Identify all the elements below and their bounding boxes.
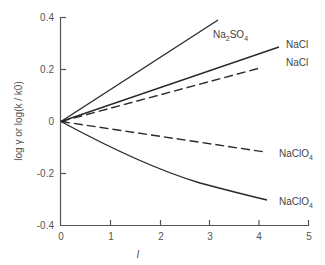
label-nacl-solid: NaCl (286, 39, 308, 50)
x-axis-title: I (137, 249, 140, 260)
label-na2so4: Na2SO4 (213, 29, 248, 42)
series-labels: Na2SO4 NaCl NaCl NaClO4 NaClO4 (213, 29, 313, 209)
y-tick-0.2: 0.2 (40, 64, 54, 75)
y-tick-neg0.2: -0.2 (37, 168, 55, 179)
x-tick-5: 5 (306, 231, 312, 242)
y-tick-0.4: 0.4 (40, 12, 54, 23)
series-nacl-solid (61, 47, 279, 122)
y-tick-neg0.4: -0.4 (37, 220, 55, 231)
y-tick-labels: 0.4 0.2 0 -0.2 -0.4 (37, 12, 55, 231)
axes (60, 17, 309, 226)
label-nacl-dashed: NaCl (286, 57, 308, 68)
x-tick-labels: 0 1 2 3 4 5 (58, 231, 312, 242)
x-tick-0: 0 (58, 231, 64, 242)
x-tick-3: 3 (207, 231, 213, 242)
series-naclo4-dashed (61, 122, 265, 153)
chart: 0.4 0.2 0 -0.2 -0.4 0 1 2 3 4 5 I log γ … (0, 0, 325, 265)
series-nacl-dashed (61, 68, 260, 122)
label-naclo4-dashed: NaClO4 (279, 148, 313, 161)
x-tick-1: 1 (108, 231, 114, 242)
y-axis-title: log γ or log(k / k0) (13, 81, 24, 160)
x-tick-4: 4 (256, 231, 262, 242)
x-tick-2: 2 (158, 231, 164, 242)
label-naclo4-solid: NaClO4 (279, 196, 313, 209)
series-na2so4-solid (61, 20, 218, 122)
series-naclo4-solid (61, 122, 267, 201)
y-tick-0: 0 (48, 116, 54, 127)
series-lines (61, 20, 279, 200)
